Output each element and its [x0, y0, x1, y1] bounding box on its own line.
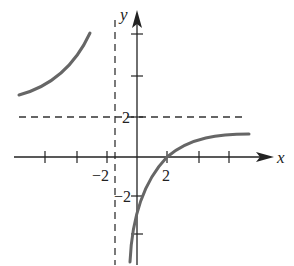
y-tick-label-pos2: 2 — [122, 109, 130, 126]
x-tick-label-pos2: 2 — [162, 167, 170, 184]
left-branch-curve — [19, 33, 90, 95]
right-branch-curve — [130, 134, 249, 262]
x-tick-label-neg2: −2 — [92, 167, 109, 184]
graph: x y −2 2 2 −2 — [0, 0, 294, 266]
x-axis-label: x — [276, 148, 285, 167]
y-tick-label-neg2: −2 — [114, 188, 131, 205]
y-axis-label: y — [118, 5, 128, 24]
